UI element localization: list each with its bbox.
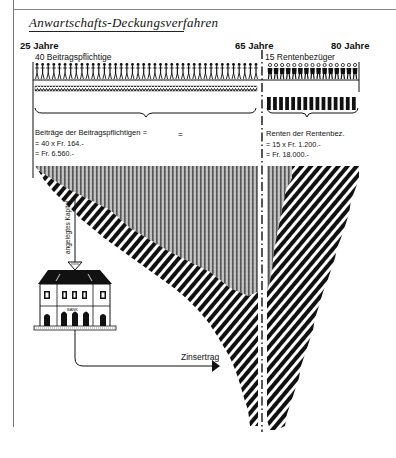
svg-text:=: = bbox=[178, 130, 183, 139]
bank-sign: BANK bbox=[67, 307, 78, 312]
bank-building bbox=[34, 270, 116, 330]
contributions-sum-line-2: = 40 x Fr. 164.- bbox=[35, 139, 84, 148]
pensions-sum-line-2: = 15 x Fr. 1.200.- bbox=[266, 140, 321, 149]
contributions-sum-line-1: Beiträge der Beitragspflichtigen = bbox=[35, 128, 147, 137]
pensions-sum-line-3: = Fr. 18.000.- bbox=[266, 150, 309, 159]
contributions-sum-line-3: = Fr. 6.560.- bbox=[35, 149, 74, 158]
interest-label: Zinsertrag bbox=[181, 352, 219, 362]
invested-capital-label: angelegtes Kapital bbox=[64, 201, 71, 255]
diagram-graphic: = bbox=[0, 0, 396, 458]
contributor-figures bbox=[35, 63, 258, 79]
pensions-sum-line-1: Renten der Rentenbez. bbox=[266, 129, 345, 138]
pension-bars bbox=[267, 97, 356, 110]
contributions-strip bbox=[35, 86, 257, 91]
